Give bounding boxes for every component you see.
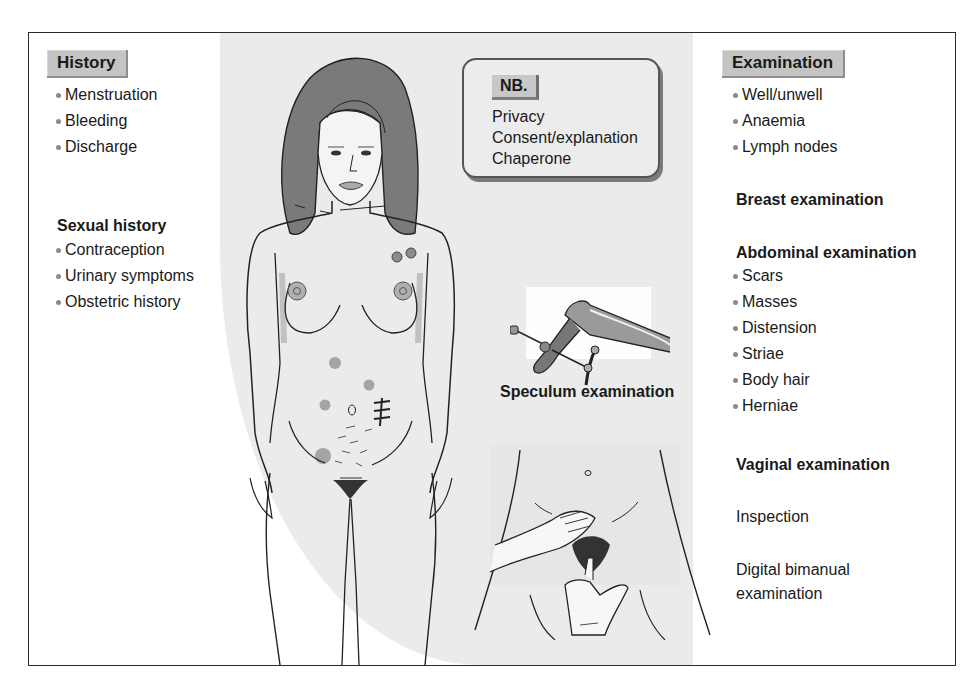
examination-item: Lymph nodes	[733, 134, 837, 160]
nb-line-privacy: Privacy	[492, 106, 638, 127]
history-item: Menstruation	[56, 82, 158, 108]
sexual-history-item: Urinary symptoms	[56, 263, 194, 289]
bullet-icon	[733, 93, 738, 98]
abdominal-item: Scars	[733, 263, 817, 289]
bullet-icon	[56, 93, 61, 98]
history-header: History	[47, 50, 128, 78]
bimanual-examination-illustration	[460, 440, 720, 640]
sexual-history-item: Obstetric history	[56, 289, 194, 315]
bullet-icon	[733, 352, 738, 357]
abdominal-examination-list: Scars Masses Distension Striae Body hair…	[733, 263, 817, 419]
nb-line-chaperone: Chaperone	[492, 148, 638, 169]
bullet-icon	[733, 378, 738, 383]
bullet-icon	[733, 145, 738, 150]
bullet-icon	[733, 274, 738, 279]
bullet-icon	[733, 300, 738, 305]
history-item: Bleeding	[56, 108, 158, 134]
abdominal-examination-heading: Abdominal examination	[736, 244, 916, 262]
breast-examination-heading: Breast examination	[736, 191, 884, 209]
bullet-icon	[733, 404, 738, 409]
bimanual-text-line2: examination	[736, 581, 822, 607]
speculum-examination-label: Speculum examination	[500, 383, 674, 401]
history-item: Discharge	[56, 134, 158, 160]
nb-line-consent: Consent/explanation	[492, 127, 638, 148]
examination-list: Well/unwell Anaemia Lymph nodes	[733, 82, 837, 160]
bullet-icon	[733, 326, 738, 331]
nb-lines: Privacy Consent/explanation Chaperone	[492, 106, 638, 169]
speculum-icon	[510, 290, 670, 390]
examination-item: Anaemia	[733, 108, 837, 134]
sexual-history-heading: Sexual history	[57, 217, 166, 235]
bullet-icon	[56, 145, 61, 150]
examination-header: Examination	[722, 50, 845, 78]
nb-header: NB.	[492, 75, 539, 100]
examination-item: Well/unwell	[733, 82, 837, 108]
abdominal-item: Masses	[733, 289, 817, 315]
bullet-icon	[56, 248, 61, 253]
abdominal-item: Striae	[733, 341, 817, 367]
abdominal-item: Body hair	[733, 367, 817, 393]
sexual-history-list: Contraception Urinary symptoms Obstetric…	[56, 237, 194, 315]
bullet-icon	[56, 300, 61, 305]
abdominal-item: Distension	[733, 315, 817, 341]
bullet-icon	[56, 119, 61, 124]
bullet-icon	[733, 119, 738, 124]
history-list: Menstruation Bleeding Discharge	[56, 82, 158, 160]
inspection-text: Inspection	[736, 504, 809, 530]
bimanual-text-line1: Digital bimanual	[736, 557, 850, 583]
bullet-icon	[56, 274, 61, 279]
vaginal-examination-heading: Vaginal examination	[736, 456, 890, 474]
sexual-history-item: Contraception	[56, 237, 194, 263]
abdominal-item: Herniae	[733, 393, 817, 419]
nb-callout-box: NB. Privacy Consent/explanation Chaperon…	[462, 58, 660, 178]
